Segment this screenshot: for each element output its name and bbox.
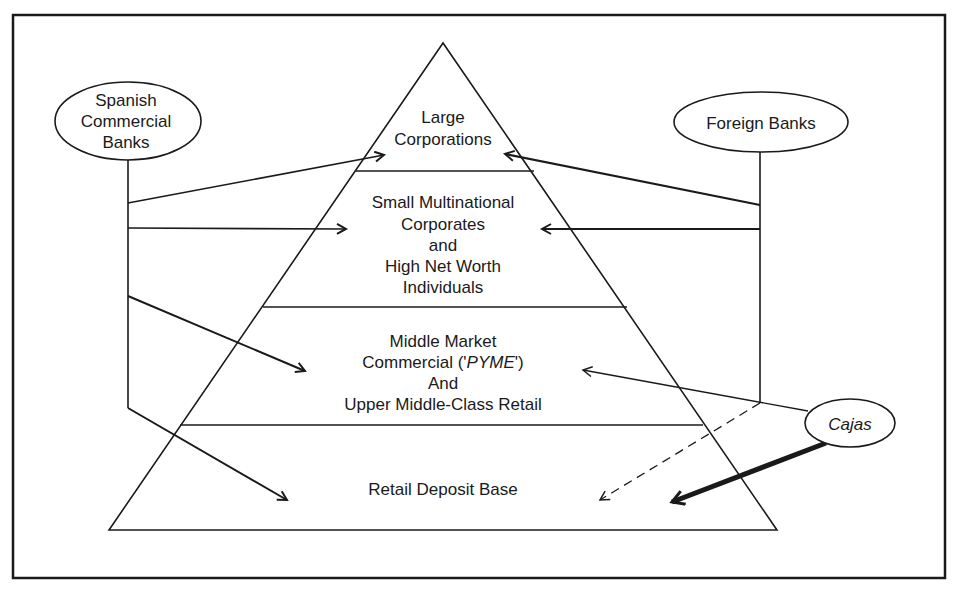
tier-small-multinational: Small Multinational Corporates and High … — [372, 193, 515, 297]
tier-label-line: Small Multinational — [372, 193, 515, 212]
actor-label: Cajas — [828, 415, 872, 434]
tier-label-line: Upper Middle-Class Retail — [344, 395, 541, 414]
actor-label-line: Banks — [102, 133, 149, 152]
actor-label: Foreign Banks — [706, 114, 816, 133]
spanish-to-large-arrow — [128, 155, 384, 203]
actor-label-line: Commercial — [81, 112, 172, 131]
actor-foreign-banks: Foreign Banks — [505, 92, 848, 500]
tier-label-line: Corporations — [394, 130, 491, 149]
tier-label-line: Retail Deposit Base — [368, 480, 517, 499]
tier-large-corporations: Large Corporations — [394, 108, 491, 149]
pyme-term: PYME — [467, 353, 516, 372]
actor-spanish-commercial-banks: Spanish Commercial Banks — [55, 82, 384, 500]
tier-label-line: And — [428, 374, 458, 393]
tier-label-line: Commercial ('PYME') — [362, 353, 523, 372]
tier-label-line: Middle Market — [390, 332, 497, 351]
tier-label-line: Corporates — [401, 215, 485, 234]
tier-label-line: High Net Worth — [385, 257, 501, 276]
pyramid-diagram: Large Corporations Small Multinational C… — [0, 0, 963, 592]
cajas-to-middle-market-arrow — [583, 370, 808, 411]
foreign-to-large-arrow — [505, 154, 760, 205]
tier-retail-deposit: Retail Deposit Base — [368, 480, 517, 499]
spanish-to-retail-arrow — [128, 408, 287, 500]
tier-label-line: Individuals — [403, 278, 483, 297]
spanish-to-small-multinational-arrow — [128, 228, 346, 229]
tier-middle-market: Middle Market Commercial ('PYME') And Up… — [344, 332, 541, 414]
tier-label-line: and — [429, 236, 457, 255]
cajas-to-retail-heavy-arrow — [672, 443, 826, 502]
actor-label-line: Spanish — [95, 91, 156, 110]
tier-label-line: Large — [421, 108, 464, 127]
foreign-to-retail-dashed-arrow — [600, 403, 760, 500]
